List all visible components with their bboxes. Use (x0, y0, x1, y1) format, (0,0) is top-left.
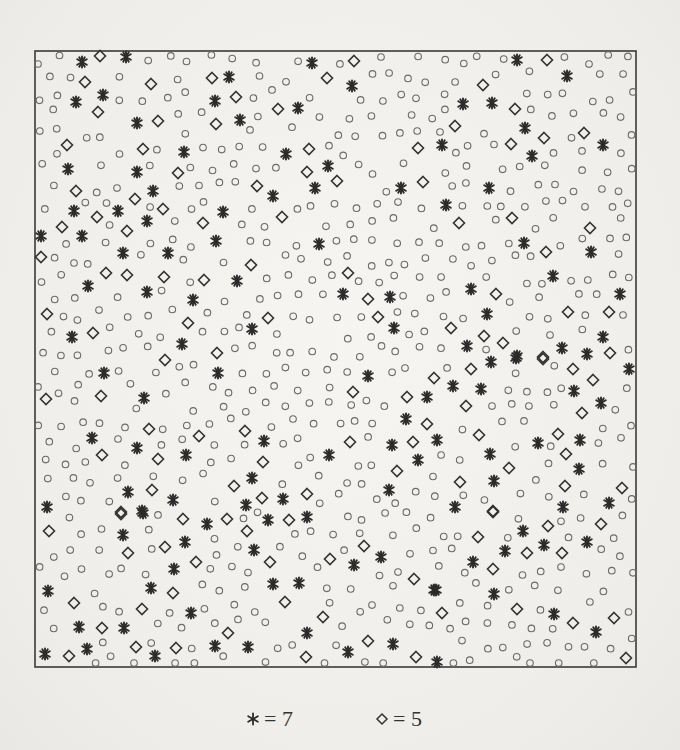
circle-marker (273, 164, 280, 171)
circle-marker (557, 243, 564, 250)
asterisk-marker (323, 161, 333, 172)
circle-marker (558, 518, 565, 525)
circle-marker (533, 477, 540, 484)
asterisk-marker (500, 546, 510, 557)
circle-marker (135, 331, 142, 338)
circle-marker (528, 106, 535, 113)
circle-marker (406, 331, 413, 338)
circle-marker (263, 275, 270, 282)
circle-marker (532, 226, 539, 233)
circle-marker (200, 199, 207, 206)
circle-marker (124, 314, 131, 321)
circle-marker (414, 128, 421, 135)
circle-marker (585, 277, 592, 284)
circle-marker (220, 259, 227, 266)
circle-marker (321, 660, 328, 667)
asterisk-marker (388, 639, 398, 650)
circle-marker (145, 312, 152, 319)
circle-marker (380, 98, 387, 105)
circle-marker (310, 420, 317, 427)
circle-marker (351, 418, 358, 425)
circle-marker (245, 569, 252, 576)
diamond-marker (273, 104, 284, 115)
circle-marker (51, 296, 58, 303)
circle-marker (617, 114, 624, 121)
diamond-marker (211, 119, 222, 130)
circle-marker (512, 370, 519, 377)
circle-marker (115, 436, 122, 443)
circle-marker (253, 165, 260, 172)
circle-marker (421, 328, 428, 335)
asterisk-marker (482, 309, 492, 320)
circle-marker (392, 348, 399, 355)
circle-marker (96, 547, 103, 554)
diamond-marker (153, 116, 164, 127)
circle-marker (549, 113, 556, 120)
circle-marker (389, 369, 396, 376)
asterisk-marker (549, 609, 559, 620)
circle-marker (568, 278, 575, 285)
circle-marker (545, 460, 552, 467)
circle-marker (45, 475, 52, 482)
asterisk-marker (557, 343, 567, 354)
diamond-marker (138, 144, 149, 155)
circle-marker (617, 215, 624, 222)
diamond-marker (41, 394, 52, 405)
circle-marker (436, 563, 443, 570)
asterisk-marker (263, 515, 273, 526)
circle-marker (463, 163, 470, 170)
diamond-marker (322, 73, 333, 84)
circle-marker (454, 533, 461, 540)
circle-marker (395, 199, 402, 206)
circle-marker (426, 622, 433, 629)
circle-marker (228, 415, 235, 422)
diamond-marker (242, 526, 253, 537)
diamond-marker (408, 437, 419, 448)
circle-marker (299, 553, 306, 560)
circle-marker (537, 607, 544, 614)
diamond-marker (349, 56, 360, 67)
circle-marker (86, 371, 93, 378)
asterisk-marker (385, 292, 395, 303)
circle-marker (498, 203, 505, 210)
diamond-marker (231, 92, 242, 103)
asterisk-marker (142, 216, 152, 227)
asterisk-marker (575, 435, 585, 446)
diamond-marker (392, 466, 403, 477)
circle-marker (326, 399, 333, 406)
circle-marker (220, 653, 227, 660)
scanned-page: = 7 = 5 (0, 0, 680, 750)
circle-marker (378, 54, 385, 61)
circle-marker (427, 295, 434, 302)
circle-marker (438, 345, 445, 352)
diamond-marker (455, 477, 466, 488)
asterisk-marker (489, 476, 499, 487)
circle-marker (106, 571, 113, 578)
circle-marker (506, 299, 513, 306)
circle-marker (552, 181, 559, 188)
circle-marker (198, 109, 205, 116)
circle-marker (599, 460, 606, 467)
circle-marker (210, 384, 217, 391)
diamond-marker (473, 532, 484, 543)
circle-marker (515, 516, 522, 523)
diamond-marker (506, 139, 517, 150)
circle-marker (407, 551, 414, 558)
circle-marker (623, 234, 630, 241)
circle-marker (165, 94, 172, 101)
circle-marker (606, 97, 613, 104)
circle-marker (63, 493, 70, 500)
asterisk-marker (422, 392, 432, 403)
circle-marker (544, 91, 551, 98)
circle-marker (279, 481, 286, 488)
circle-marker (413, 95, 420, 102)
circle-marker (453, 149, 460, 156)
asterisk-marker (247, 324, 257, 335)
circle-marker (100, 639, 107, 646)
asterisk-marker (121, 52, 131, 63)
circle-marker (283, 79, 290, 86)
circle-marker (229, 563, 236, 570)
circle-marker (551, 402, 558, 409)
circle-marker (461, 60, 468, 67)
circle-marker (235, 616, 242, 623)
